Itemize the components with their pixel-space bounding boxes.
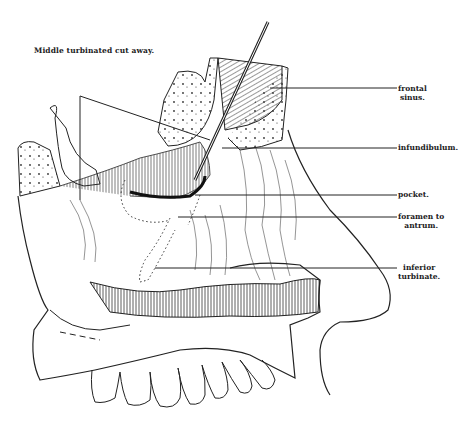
nose-outline [288, 130, 390, 395]
label-foramen-to-antrum: foramen to antrum. [398, 212, 444, 230]
label-line: antrum. [398, 221, 444, 230]
label-frontal-sinus: frontal sinus. [398, 84, 427, 102]
label-infundibulum: infundibulum. [398, 143, 458, 152]
label-line: frontal [398, 84, 427, 93]
label-line: foramen to [398, 212, 444, 221]
figure-caption: Middle turbinated cut away. [34, 46, 154, 55]
label-inferior-turbinate: inferior turbinate. [398, 263, 440, 281]
label-line: inferior [398, 263, 440, 272]
label-line: sinus. [398, 93, 427, 102]
label-line: infundibulum. [398, 143, 458, 152]
label-line: pocket. [398, 190, 429, 199]
label-pocket: pocket. [398, 190, 429, 199]
teeth [91, 360, 275, 407]
label-line: turbinate. [398, 272, 440, 281]
